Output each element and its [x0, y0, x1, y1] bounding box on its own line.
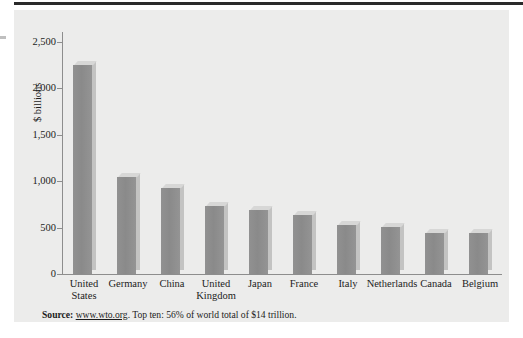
bar-top-3d	[294, 211, 317, 215]
bar-top-3d	[250, 206, 273, 210]
bar	[469, 233, 488, 274]
bar-top-3d	[206, 202, 229, 206]
bar	[161, 188, 180, 274]
bar-top-3d	[426, 229, 449, 233]
bar	[249, 210, 268, 274]
figure-container: 05001,0001,5002,0002,500 $ billions Unit…	[0, 0, 523, 338]
y-axis-tick	[57, 42, 62, 43]
top-rule-divider	[14, 2, 523, 5]
chart-panel: 05001,0001,5002,0002,500 $ billions Unit…	[14, 10, 509, 322]
bar	[425, 233, 444, 274]
y-axis-tick	[57, 181, 62, 182]
bar-side-3d	[268, 206, 272, 270]
bar-side-3d	[356, 221, 360, 270]
bar-face	[73, 65, 92, 274]
bar-face	[117, 177, 136, 274]
bar-top-3d	[470, 229, 493, 233]
bar-side-3d	[400, 223, 404, 270]
y-axis-tick-label: 1,000	[32, 176, 56, 186]
y-axis-title: $ billions	[32, 83, 43, 122]
source-detail: . Top ten: 56% of world total of $14 tri…	[128, 309, 297, 320]
bar-side-3d	[444, 229, 448, 270]
bar	[73, 65, 92, 274]
bar-face	[337, 225, 356, 274]
y-axis-tick-labels: 05001,0001,5002,0002,500	[14, 32, 56, 275]
y-axis-tick-label: 2,500	[32, 37, 56, 47]
bar	[117, 177, 136, 274]
y-axis-tick	[57, 88, 62, 89]
bar-face	[381, 227, 400, 274]
bar-top-3d	[338, 221, 361, 225]
y-axis-tick-label: 500	[40, 223, 56, 233]
x-axis-category-label: Belgium	[452, 278, 508, 290]
bar	[337, 225, 356, 274]
plot-area: United StatesGermanyChinaUnited KingdomJ…	[62, 32, 502, 275]
y-axis-tick	[57, 274, 62, 275]
y-axis-tick	[57, 228, 62, 229]
x-axis-line	[62, 274, 502, 275]
bar-side-3d	[136, 173, 140, 270]
bar-face	[293, 215, 312, 274]
bar-face	[161, 188, 180, 274]
bar	[381, 227, 400, 274]
source-label: Source:	[42, 309, 73, 320]
bar-face	[249, 210, 268, 274]
source-note: Source: www.wto.org. Top ten: 56% of wor…	[42, 309, 512, 321]
bar-top-3d	[118, 173, 141, 177]
y-axis-tick-label: 1,500	[32, 130, 56, 140]
source-url[interactable]: www.wto.org	[76, 309, 128, 320]
left-margin-mark	[0, 36, 6, 39]
bar-side-3d	[180, 184, 184, 270]
bar-face	[425, 233, 444, 274]
bar-face	[469, 233, 488, 274]
bar-side-3d	[488, 229, 492, 270]
bar	[293, 215, 312, 274]
bar-top-3d	[74, 61, 97, 65]
bar	[205, 206, 224, 274]
y-axis-line	[62, 32, 63, 275]
y-axis-tick	[57, 135, 62, 136]
bar-side-3d	[224, 202, 228, 270]
bar-side-3d	[312, 211, 316, 270]
bar-side-3d	[92, 61, 96, 270]
bar-face	[205, 206, 224, 274]
bar-top-3d	[382, 223, 405, 227]
bar-top-3d	[162, 184, 185, 188]
